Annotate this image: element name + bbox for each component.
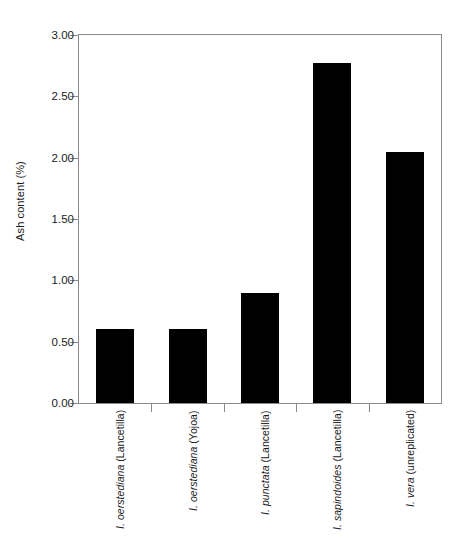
y-axis-tick-label: 0.50 — [52, 336, 74, 348]
bar — [386, 152, 424, 403]
x-axis-label-text: I. oerstediana (Lancetilla) — [114, 410, 126, 529]
y-axis-tick-label: 0.00 — [52, 397, 74, 409]
x-axis-label-text: I. sapindoides (Lancetilla) — [331, 410, 343, 530]
plot-area: 0.000.501.001.502.002.503.00 — [78, 34, 442, 404]
y-axis-tick-label: 2.50 — [52, 90, 74, 102]
bar — [169, 329, 207, 403]
x-axis-label-text: I. punctata (Lancetilla) — [259, 410, 271, 515]
y-axis-title-text: Ash content (%) — [14, 161, 26, 241]
bar — [241, 293, 279, 403]
x-axis-label-text: I. oerstediana (Yojoa) — [187, 410, 199, 511]
bar — [96, 329, 134, 403]
x-axis-label-text: I. vera (unreplicated) — [404, 410, 416, 507]
bar — [313, 63, 351, 403]
y-axis-tick-label: 1.00 — [52, 274, 74, 286]
ash-content-bar-chart: Ash content (%) 0.000.501.001.502.002.50… — [0, 0, 460, 538]
x-axis-labels: I. oerstediana (Lancetilla)I. oerstedian… — [78, 404, 440, 536]
y-axis-tick-label: 1.50 — [52, 213, 74, 225]
y-axis-tick-label: 3.00 — [52, 29, 74, 41]
y-axis-tick-label: 2.00 — [52, 152, 74, 164]
y-axis-title: Ash content (%) — [0, 0, 40, 402]
